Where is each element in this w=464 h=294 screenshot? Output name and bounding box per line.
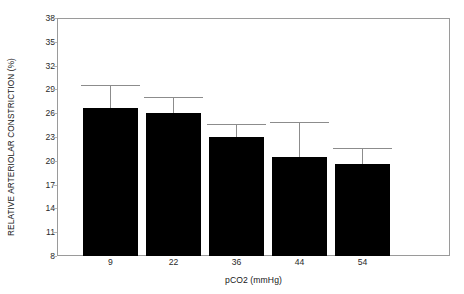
error-bar-cap [144,97,203,98]
y-tick-mark [52,256,57,257]
x-tick-label: 9 [83,258,138,267]
x-tick-label: 36 [209,258,264,267]
bar-series-layer [57,18,450,256]
error-bar-cap [81,85,140,86]
error-bar-stem [236,124,237,137]
x-tick-label: 44 [272,258,327,267]
bar[interactable] [272,157,327,256]
bar[interactable] [146,113,201,256]
x-tick-label: 22 [146,258,201,267]
error-bar-stem [299,122,300,157]
bar-group[interactable] [335,18,390,256]
error-bar-stem [362,148,363,164]
x-axis-title: pCO2 (mmHg) [57,275,450,285]
bar[interactable] [83,108,138,256]
bar-group[interactable] [146,18,201,256]
bar[interactable] [335,164,390,256]
figure-canvas: RELATIVE ARTERIOLAR CONSTRICTION (%) 811… [0,0,464,294]
error-bar-cap [333,148,392,149]
bar[interactable] [209,137,264,256]
y-axis-title: RELATIVE ARTERIOLAR CONSTRICTION (%) [0,0,22,294]
bar-group[interactable] [272,18,327,256]
error-bar-cap [207,124,266,125]
error-bar-stem [173,97,174,114]
x-axis-tick-labels: 922364454 [57,258,450,274]
error-bar-cap [270,122,329,123]
bar-group[interactable] [83,18,138,256]
x-tick-label: 54 [335,258,390,267]
error-bar-stem [110,85,111,108]
bar-group[interactable] [209,18,264,256]
